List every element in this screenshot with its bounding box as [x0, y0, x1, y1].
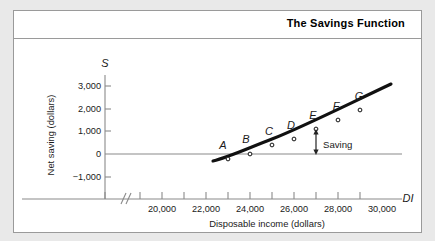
y-axis-symbol: S — [101, 57, 109, 69]
data-point-label-d: D — [287, 119, 295, 131]
data-point-label-c: C — [265, 125, 273, 137]
y-tick-label-1000: 1,000 — [78, 126, 101, 136]
savings-curve — [213, 84, 391, 161]
data-point-c — [270, 143, 274, 147]
data-point-g — [358, 108, 362, 112]
y-tick-label-0: 0 — [96, 149, 101, 159]
saving-annotation-label: Saving — [323, 139, 352, 150]
y-axis-ticks — [105, 86, 111, 177]
x-tick-label-20000: 20,000 — [148, 204, 176, 214]
x-tick-label-22000: 22,000 — [192, 204, 220, 214]
data-point-label-b: B — [242, 133, 249, 145]
plot-area: A B C D E F G Saving 3,000 2,000 1,000 0… — [14, 39, 423, 233]
x-tick-label-26000: 26,000 — [280, 204, 308, 214]
saving-annotation-arrow — [313, 129, 318, 155]
y-tick-label-3000: 3,000 — [78, 81, 101, 91]
y-tick-label-minus1000: −1,000 — [73, 172, 101, 182]
data-point-label-g: G — [355, 90, 364, 102]
figure-panel: The Savings Function — [13, 10, 422, 233]
y-tick-label-2000: 2,000 — [78, 104, 101, 114]
savings-function-chart: A B C D E F G Saving 3,000 2,000 1,000 0… — [14, 39, 423, 233]
data-point-label-e: E — [309, 109, 317, 121]
data-point-label-a: A — [218, 139, 226, 151]
data-point-b — [248, 152, 252, 156]
chart-title: The Savings Function — [287, 17, 405, 29]
x-tick-label-30000: 30,000 — [368, 204, 396, 214]
title-bar: The Savings Function — [14, 11, 421, 39]
y-axis-title: Net saving (dollars) — [45, 95, 56, 176]
x-axis-title: Disposable income (dollars) — [209, 218, 325, 229]
data-point-f — [336, 118, 340, 122]
x-tick-label-28000: 28,000 — [324, 204, 352, 214]
data-point-d — [292, 137, 296, 141]
x-axis-symbol: DI — [403, 192, 414, 204]
x-axis-ticks — [105, 192, 360, 199]
x-tick-label-24000: 24,000 — [236, 204, 264, 214]
data-point-a — [226, 157, 230, 161]
